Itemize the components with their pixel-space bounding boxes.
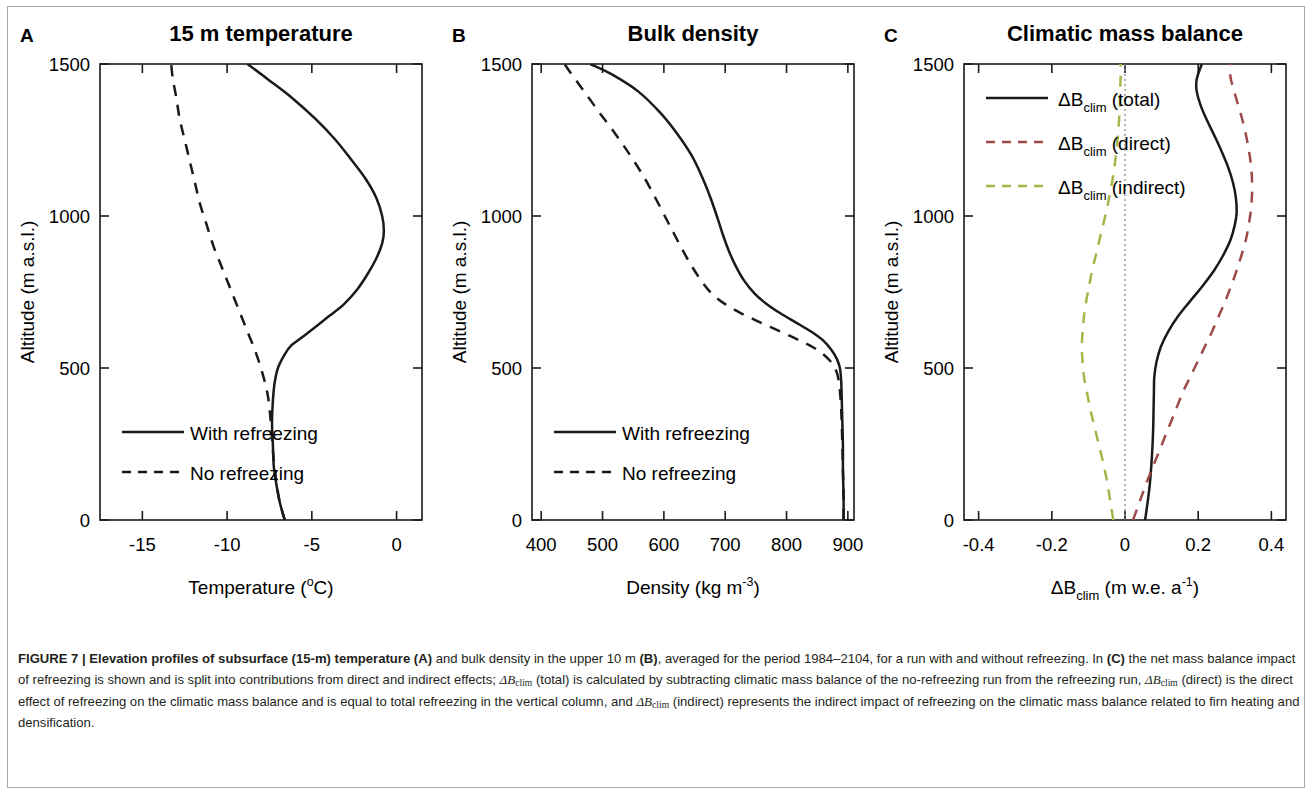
legend-label: ΔBclim (indirect): [1058, 177, 1186, 203]
y-tick-label: 1500: [481, 54, 522, 75]
y-tick-label: 0: [512, 510, 522, 531]
x-tick-label: -0.2: [1036, 534, 1068, 555]
legend-label: With refreezing: [622, 423, 750, 444]
caption-lead: FIGURE 7 | Elevation profiles of subsurf…: [18, 651, 432, 666]
panel-title: Bulk density: [628, 21, 760, 46]
x-tick-label: -10: [214, 534, 241, 555]
legend-label: No refreezing: [190, 463, 304, 484]
caption-tag-c: (C): [1107, 651, 1125, 666]
figure-caption: FIGURE 7 | Elevation profiles of subsurf…: [18, 648, 1303, 734]
x-tick-label: 400: [526, 534, 557, 555]
x-tick-label: -5: [304, 534, 320, 555]
y-tick-label: 0: [944, 510, 954, 531]
legend-label: ΔBclim (total): [1058, 89, 1160, 115]
series-curve: [247, 64, 383, 520]
x-tick-label: 600: [648, 534, 679, 555]
plots-row: A15 m temperature-15-10-50050010001500Al…: [8, 8, 1304, 638]
legend-label: ΔBclim (direct): [1058, 133, 1171, 159]
x-tick-label: 500: [587, 534, 618, 555]
x-tick-label: -0.4: [963, 534, 995, 555]
y-tick-label: 0: [80, 510, 90, 531]
figure-page: A15 m temperature-15-10-50050010001500Al…: [0, 0, 1315, 794]
panel-letter: C: [884, 25, 898, 46]
series-curve: [590, 64, 843, 520]
caption-symbol: ΔBclim: [500, 672, 533, 687]
x-tick-label: 0.4: [1259, 534, 1285, 555]
legend: ΔBclim (total)ΔBclim (direct)ΔBclim (ind…: [986, 89, 1186, 203]
y-axis-label: Altitude (m a.s.l.): [881, 221, 902, 364]
x-tick-label: -15: [129, 534, 156, 555]
plot-frame: [532, 64, 854, 520]
y-axis-label: Altitude (m a.s.l.): [17, 221, 38, 364]
panel-title: 15 m temperature: [169, 21, 352, 46]
caption-symbol: ΔBclim: [1145, 672, 1178, 687]
y-tick-label: 500: [491, 358, 522, 379]
caption-text: (total) is calculated by subtracting cli…: [532, 672, 1145, 687]
y-tick-label: 500: [59, 358, 90, 379]
caption-text: , averaged for the period 1984–2104, for…: [658, 651, 1107, 666]
x-tick-label: 900: [832, 534, 863, 555]
panel-title: Climatic mass balance: [1007, 21, 1243, 46]
series-curve: [565, 64, 844, 520]
y-tick-label: 500: [923, 358, 954, 379]
panel-letter: A: [20, 25, 34, 46]
x-tick-label: 700: [710, 534, 741, 555]
panel-letter: B: [452, 25, 466, 46]
x-tick-label: 0: [1120, 534, 1130, 555]
y-tick-label: 1000: [481, 206, 522, 227]
y-tick-label: 1500: [49, 54, 90, 75]
y-tick-label: 1000: [49, 206, 90, 227]
x-axis-label: ΔBclim (m w.e. a-1): [1051, 575, 1199, 603]
y-tick-label: 1000: [913, 206, 954, 227]
x-tick-label: 0: [391, 534, 401, 555]
x-axis-label: Density (kg m-3): [626, 575, 760, 598]
caption-tag-b: (B): [639, 651, 657, 666]
legend-label: No refreezing: [622, 463, 736, 484]
panel-a: A15 m temperature-15-10-50050010001500Al…: [8, 8, 440, 638]
x-tick-label: 800: [771, 534, 802, 555]
series-curve: [171, 64, 285, 520]
x-tick-label: 0.2: [1185, 534, 1211, 555]
caption-symbol: ΔBclim: [636, 694, 669, 709]
y-axis-label: Altitude (m a.s.l.): [449, 221, 470, 364]
plot-frame: [100, 64, 422, 520]
legend: With refreezingNo refreezing: [122, 423, 318, 484]
y-tick-label: 1500: [913, 54, 954, 75]
panel-c: CClimatic mass balance-0.4-0.200.20.4050…: [872, 8, 1304, 638]
caption-text: and bulk density in the upper 10 m: [432, 651, 639, 666]
legend-label: With refreezing: [190, 423, 318, 444]
x-axis-label: Temperature (oC): [188, 575, 333, 598]
legend: With refreezingNo refreezing: [554, 423, 750, 484]
panel-b: BBulk density400500600700800900050010001…: [440, 8, 872, 638]
